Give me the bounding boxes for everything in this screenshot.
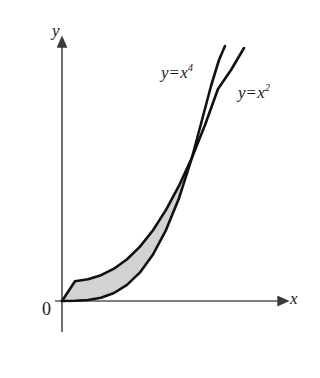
curve-label-quartic-base: x: [180, 63, 188, 82]
curve-label-quartic: y=x4: [161, 64, 193, 81]
curve-label-quadratic-op: =: [246, 83, 258, 102]
x-axis-label: x: [290, 290, 298, 307]
curve-label-quartic-exponent: 4: [188, 62, 193, 73]
curve-label-quadratic-base: x: [257, 83, 265, 102]
curve-label-quadratic-exponent: 2: [265, 82, 270, 93]
curve-label-quartic-y: y: [161, 63, 169, 82]
origin-label: 0: [42, 300, 51, 318]
curve-label-quadratic: y=x2: [238, 84, 270, 101]
curves-group: [62, 46, 244, 301]
y-axis-label: y: [52, 22, 60, 39]
curve-label-quadratic-y: y: [238, 83, 246, 102]
graph-canvas: [0, 0, 320, 378]
curve-label-quartic-op: =: [169, 63, 181, 82]
math-figure: y=x4 y=x2 y x 0: [0, 0, 320, 378]
curve-y-equals-x-squared: [62, 48, 244, 301]
